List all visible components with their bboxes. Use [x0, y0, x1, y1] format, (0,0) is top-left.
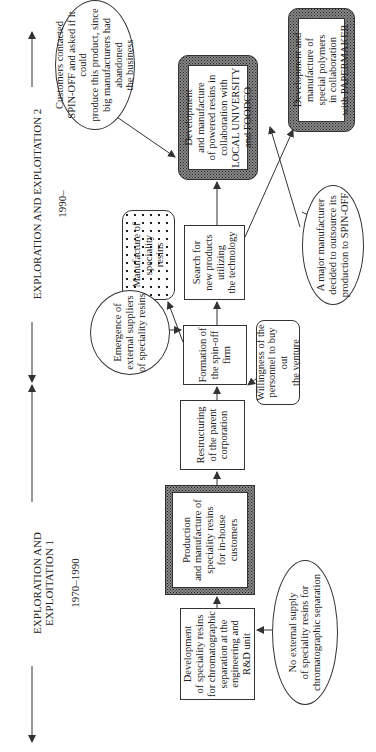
node-dev-rnd-text: Development of speciality resins for chr…	[182, 611, 253, 697]
node-restructuring: Restructuring of the parent corporation	[180, 400, 245, 470]
period-title-1: EXPLORATION AND EXPLOITATION 1	[31, 532, 56, 634]
node-dev-powdered-text: Development and manufacture of powered r…	[188, 65, 248, 170]
node-manufacture: Manufacture of speciality resins	[122, 210, 175, 300]
driver-willingness-text: Willingness of the personnel to buy out …	[255, 321, 302, 404]
driver-no-external-supply: No external supply of speciality resins …	[272, 560, 338, 705]
node-formation-text: Formation of the spin-off firm	[197, 327, 232, 382]
node-production: Production and manufacture of speciality…	[165, 485, 255, 595]
driver-major-manufacturer: A major manufacturer decided to outsourc…	[302, 185, 364, 305]
driver-customers: Customers contacted SPIN-OFF and asked i…	[55, 0, 135, 130]
node-dev-polymers: Development and manufacture of special p…	[288, 8, 355, 132]
node-dev-rnd: Development of speciality resins for chr…	[180, 608, 255, 700]
driver-emergence-text: Emergence of external suppliers of speci…	[112, 293, 147, 372]
node-manufacture-text: Manufacture of speciality resins	[131, 223, 166, 288]
period-years-1: 1970–1990	[69, 558, 81, 608]
driver-major-manufacturer-text: A major manufacturer decided to outsourc…	[315, 193, 350, 297]
node-dev-polymers-text: Development and manufacture of special p…	[298, 18, 345, 122]
driver-no-external-text: No external supply of speciality resins …	[287, 574, 322, 691]
node-restructuring-text: Restructuring of the parent corporation	[195, 406, 230, 463]
driver-emergence: Emergence of external suppliers of speci…	[90, 290, 170, 375]
period-label-1: EXPLORATION AND EXPLOITATION 1 1970–1990	[18, 504, 81, 662]
node-search-text: Search for new products utilizing the te…	[191, 231, 238, 293]
node-search: Search for new products utilizing the te…	[184, 225, 245, 300]
period-title-2: EXPLORATION AND EXPLOITATION 2	[31, 109, 43, 300]
diagram-canvas: EXPLORATION AND EXPLOITATION 1 1970–1990…	[0, 0, 376, 752]
driver-customers-text: Customers contacted SPIN-OFF and asked i…	[54, 1, 136, 129]
period-years-2: 1990–	[56, 190, 68, 218]
node-dev-powdered: Development and manufacture of powered r…	[178, 55, 258, 180]
driver-willingness: Willingness of the personnel to buy out …	[256, 320, 300, 405]
node-production-text: Production and manufacture of speciality…	[172, 492, 248, 588]
node-formation: Formation of the spin-off firm	[183, 325, 247, 385]
